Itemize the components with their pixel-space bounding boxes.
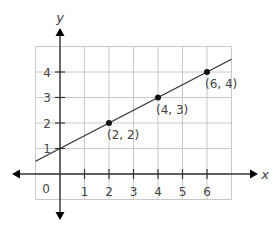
- coordinate-plane: 12345612340xy(2, 2)(4, 3)(6, 4): [0, 0, 274, 225]
- x-tick-label: 4: [154, 185, 162, 199]
- origin-label: 0: [42, 182, 50, 196]
- y-tick-label: 4: [43, 66, 51, 80]
- data-point: [204, 69, 210, 75]
- x-tick-label: 5: [179, 185, 187, 199]
- y-tick-label: 2: [43, 117, 51, 131]
- y-axis-up-arrow-icon: [56, 28, 65, 36]
- y-tick-label: 1: [43, 142, 51, 156]
- data-point-label: (2, 2): [107, 128, 139, 142]
- labels: 12345612340xy(2, 2)(4, 3)(6, 4): [42, 10, 269, 199]
- x-axis-label: x: [260, 167, 269, 182]
- x-axis-right-arrow-icon: [250, 170, 258, 179]
- y-tick-label: 3: [43, 91, 51, 105]
- y-axis-down-arrow-icon: [56, 212, 65, 220]
- data-point-label: (4, 3): [156, 103, 188, 117]
- x-tick-label: 3: [130, 185, 138, 199]
- x-tick-label: 2: [105, 185, 113, 199]
- data-point: [155, 95, 161, 101]
- y-axis-label: y: [55, 10, 64, 25]
- data-point: [106, 120, 112, 126]
- x-tick-label: 1: [81, 185, 89, 199]
- data-point-label: (6, 4): [205, 77, 237, 91]
- x-tick-label: 6: [203, 185, 211, 199]
- x-axis-left-arrow-icon: [12, 170, 20, 179]
